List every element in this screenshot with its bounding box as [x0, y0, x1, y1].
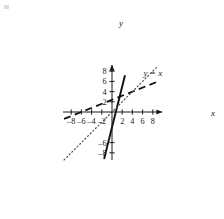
x-tick-label: –2: [97, 117, 106, 126]
y-tick-label: 8: [102, 67, 106, 76]
x-tick-label: 4: [130, 117, 134, 126]
x-tick-label: 8: [151, 117, 155, 126]
coordinate-plane: –8–6–4–224688642–6–8 x y y = x: [0, 0, 224, 219]
y-tick-label: –8: [97, 149, 106, 158]
y-tick-label: 2: [102, 98, 106, 107]
y-axis-label: y: [118, 18, 123, 28]
x-tick-label: –8: [66, 117, 75, 126]
y-tick-label: 6: [102, 77, 106, 86]
x-tick-label: 6: [141, 117, 145, 126]
y-equals-x-annotation: y = x: [143, 68, 163, 78]
graph-figure: –8–6–4–224688642–6–8 x y y = x: [0, 0, 224, 219]
corner-artifact: [4, 5, 9, 9]
x-tick-label: 2: [120, 117, 124, 126]
x-tick-label: –6: [76, 117, 85, 126]
x-axis-label: x: [210, 108, 215, 118]
x-tick-label: –4: [87, 117, 96, 126]
y-tick-label: 4: [102, 88, 106, 97]
y-tick-label: –6: [97, 139, 106, 148]
